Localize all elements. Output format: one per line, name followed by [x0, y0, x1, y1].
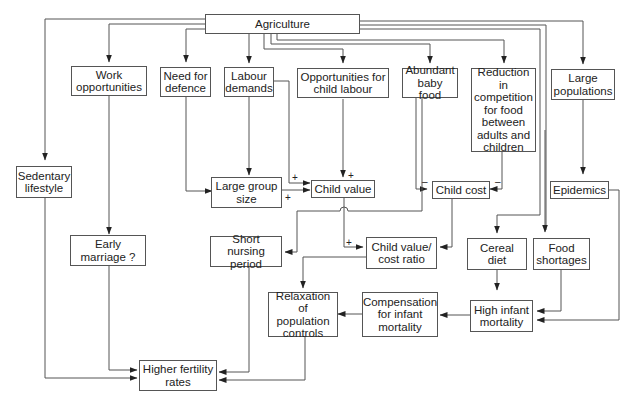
node-label: Early marriage ?	[81, 238, 136, 263]
node-large-populations: Large populations	[551, 69, 615, 100]
node-label: Need for defence	[163, 70, 207, 95]
node-label: Work opportunities	[76, 69, 142, 94]
node-child-value: Child value	[311, 180, 375, 198]
node-label: Labour demands	[225, 70, 272, 95]
node-label: Child cost	[436, 184, 487, 197]
plus-sign-labour: +	[292, 173, 298, 183]
plus-sign-ratio: +	[346, 238, 352, 248]
node-label: Compensation for infant mortality	[363, 296, 437, 334]
node-short-nursing-period: Short nursing period	[210, 236, 282, 267]
node-child-labour: Opportunities for child labour	[297, 68, 389, 98]
node-label: Large populations	[554, 72, 613, 97]
node-label: Epidemics	[553, 184, 606, 197]
node-food-shortages: Food shortages	[533, 238, 590, 270]
node-higher-fertility-rates: Higher fertility rates	[139, 360, 217, 391]
node-label: Food shortages	[536, 242, 587, 267]
node-reduction-in-competition: Reduction in competition for food betwee…	[471, 68, 536, 152]
node-sedentary-lifestyle: Sedentary lifestyle	[16, 166, 72, 198]
node-relaxation-population-controls: Relaxation of population controls	[268, 292, 338, 337]
node-label: Child value/ cost ratio	[371, 241, 431, 266]
node-label: Reduction in competition for food betwee…	[474, 66, 533, 154]
node-epidemics: Epidemics	[550, 181, 609, 199]
node-label: Large group size	[215, 180, 277, 205]
node-label: Cereal diet	[480, 242, 514, 267]
node-need-for-defence: Need for defence	[160, 67, 211, 97]
node-labour-demands: Labour demands	[224, 67, 274, 97]
node-label: Opportunities for child labour	[300, 71, 385, 96]
node-label: Relaxation of population controls	[271, 290, 335, 340]
node-abundant-baby-food: Abundant baby food	[402, 68, 458, 98]
node-cereal-diet: Cereal diet	[467, 238, 527, 270]
node-compensation-infant-mortality: Compensation for infant mortality	[362, 292, 438, 337]
flow-diagram: Agriculture Work opportunities Need for …	[0, 0, 633, 402]
node-label: Child value	[315, 183, 372, 196]
node-label: Higher fertility rates	[143, 363, 213, 388]
minus-sign-reduction: –	[495, 177, 501, 187]
node-work-opportunities: Work opportunities	[71, 66, 147, 96]
node-label: Short nursing period	[213, 233, 279, 271]
minus-sign-baby-food: –	[422, 177, 428, 187]
node-label: Sedentary lifestyle	[18, 170, 70, 195]
node-large-group-size: Large group size	[211, 177, 282, 208]
node-high-infant-mortality: High infant mortality	[470, 300, 533, 332]
node-child-value-cost-ratio: Child value/ cost ratio	[366, 237, 437, 269]
node-label: Agriculture	[255, 18, 310, 31]
node-label: High infant mortality	[474, 304, 529, 329]
node-label: Abundant baby food	[405, 64, 455, 102]
node-early-marriage: Early marriage ?	[70, 235, 146, 266]
plus-sign-group: +	[285, 193, 291, 203]
node-child-cost: Child cost	[432, 181, 490, 199]
plus-sign-child-labour: +	[348, 171, 354, 181]
node-agriculture: Agriculture	[205, 14, 360, 34]
connector-lines	[0, 0, 633, 402]
